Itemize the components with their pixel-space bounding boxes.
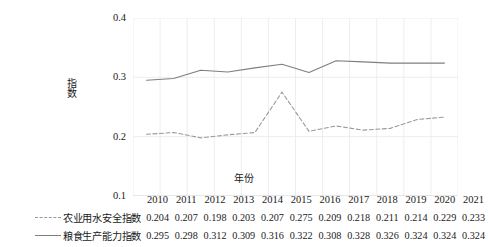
table-header-year: 2015 [287, 190, 316, 208]
table-cell-value: 0.324 [459, 226, 488, 244]
table-header-year: 2019 [402, 190, 431, 208]
table-header-year: 2014 [258, 190, 287, 208]
x-axis-title: 年份 [0, 170, 488, 185]
table-row: 粮食生产能力指数0.2950.2980.3120.3090.3160.3220.… [0, 226, 488, 244]
table-row: 农业用水安全指数0.2040.2070.1980.2030.2070.2750.… [0, 208, 488, 226]
table-header-year: 2013 [229, 190, 258, 208]
y-axis-title: 指数 [60, 78, 76, 98]
table-header-year: 2016 [316, 190, 345, 208]
table-cell-value: 0.209 [316, 208, 345, 226]
legend-swatch-solid [35, 235, 61, 236]
table-cell-value: 0.295 [143, 226, 172, 244]
table-header-year: 2018 [373, 190, 402, 208]
table-cell-value: 0.275 [287, 208, 316, 226]
table-cell-value: 0.322 [287, 226, 316, 244]
table-cell-value: 0.324 [430, 226, 459, 244]
table-header-year: 2020 [430, 190, 459, 208]
table-cell-value: 0.308 [316, 226, 345, 244]
legend-item-0: 农业用水安全指数 [0, 208, 143, 226]
table-cell-value: 0.203 [229, 208, 258, 226]
legend-row-head: 农业用水安全指数 [0, 210, 141, 225]
table-cell-value: 0.298 [172, 226, 201, 244]
table-row-years: 2010201120122013201420152016201720182019… [0, 190, 488, 208]
line-chart-figure: 指数 0.4 0.3 0.2 0.1 年份 201020112012201320… [0, 0, 488, 247]
legend-label: 农业用水安全指数 [63, 210, 141, 225]
table-cell-value: 0.316 [258, 226, 287, 244]
table-cell-value: 0.218 [344, 208, 373, 226]
table-cell-value: 0.207 [258, 208, 287, 226]
table-cell-value: 0.326 [373, 226, 402, 244]
table-cell-value: 0.324 [402, 226, 431, 244]
data-table: 2010201120122013201420152016201720182019… [0, 190, 488, 244]
table-header-year: 2012 [201, 190, 230, 208]
table-cell-value: 0.214 [402, 208, 431, 226]
legend-label: 粮食生产能力指数 [63, 228, 141, 243]
table-cell-value: 0.229 [430, 208, 459, 226]
y-tick-label-0.2: 0.2 [100, 132, 126, 143]
legend-swatch-dashed [35, 217, 61, 218]
table-cell-value: 0.207 [172, 208, 201, 226]
table-cell-value: 0.328 [344, 226, 373, 244]
table-cell-value: 0.312 [201, 226, 230, 244]
table-cell-value: 0.204 [143, 208, 172, 226]
table-header-year: 2010 [143, 190, 172, 208]
table-cell-value: 0.198 [201, 208, 230, 226]
legend-item-1: 粮食生产能力指数 [0, 226, 143, 244]
y-tick-label-0.3: 0.3 [100, 72, 126, 83]
y-tick-label-0.4: 0.4 [100, 13, 126, 24]
table-cell-value: 0.233 [459, 208, 488, 226]
table-header-year: 2021 [459, 190, 488, 208]
table-cell-value: 0.211 [373, 208, 402, 226]
legend-row-head: 粮食生产能力指数 [0, 228, 141, 243]
table-cell-value: 0.309 [229, 226, 258, 244]
table-header-year: 2011 [172, 190, 201, 208]
table-header-year: 2017 [344, 190, 373, 208]
table-corner-cell [0, 190, 143, 208]
